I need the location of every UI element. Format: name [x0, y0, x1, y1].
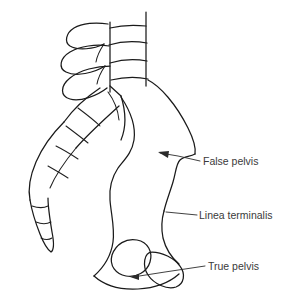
label-false-pelvis: False pelvis	[158, 151, 258, 167]
sacrum-medial-inner-line	[50, 148, 76, 188]
coccyx-segment-line-2	[36, 222, 51, 224]
label-linea-terminalis: Linea terminalis	[166, 209, 273, 221]
intervertebral-disc-line-4	[111, 78, 148, 80]
ilium-group	[94, 80, 195, 289]
pelvis-figure: False pelvis Linea terminalis True pelvi…	[0, 0, 286, 307]
label-text-true-pelvis: True pelvis	[208, 260, 259, 272]
spinous-processes-group	[61, 23, 110, 100]
sacral-segment-line-2	[66, 126, 88, 143]
coccyx-segment-line-3	[41, 238, 52, 240]
sacral-ala-upper	[64, 88, 100, 122]
intervertebral-disc-line-1	[110, 25, 146, 28]
coccyx-segment-line-1	[32, 206, 48, 208]
ilium-lateral-notch	[164, 154, 195, 211]
lumbar-vertebrae-group	[109, 12, 148, 92]
sacrum-group	[29, 86, 125, 200]
ilium-anterior-inferior-border	[162, 211, 179, 264]
arrow-head-false-pelvis	[158, 151, 169, 158]
spinous-process-3	[63, 66, 111, 100]
coccyx-group	[30, 198, 53, 252]
leader-line-linea-terminalis	[166, 212, 197, 215]
intervertebral-disc-line-3	[110, 60, 147, 63]
sacrum-posterior-border	[29, 122, 64, 200]
iliac-crest	[148, 80, 195, 154]
sacral-segment-line-3	[56, 146, 78, 159]
sacral-ala-lower	[76, 106, 119, 148]
anatomy-illustration: False pelvis Linea terminalis True pelvi…	[0, 0, 286, 307]
sacral-promontory	[110, 86, 121, 96]
arrow-head-true-pelvis	[130, 274, 139, 280]
label-text-false-pelvis: False pelvis	[203, 155, 258, 167]
sacral-segment-line-1	[78, 108, 100, 126]
sacral-segment-line-4	[48, 166, 68, 178]
sacral-ala-detail	[108, 92, 119, 120]
label-text-linea-terminalis: Linea terminalis	[199, 209, 273, 221]
intervertebral-disc-line-2	[109, 42, 147, 45]
